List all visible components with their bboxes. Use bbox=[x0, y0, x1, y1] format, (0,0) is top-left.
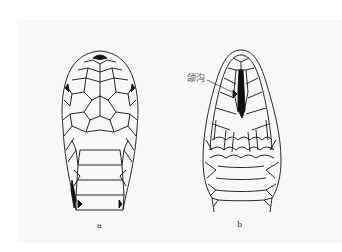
annotation-mental-groove: 颌沟 bbox=[187, 71, 205, 84]
head-b-ventral bbox=[203, 50, 281, 212]
panel-label-b: b bbox=[237, 220, 242, 229]
panel-label-a: a bbox=[97, 221, 102, 230]
snake-heads-illustration bbox=[0, 0, 342, 252]
head-a-dorsal bbox=[62, 51, 138, 210]
